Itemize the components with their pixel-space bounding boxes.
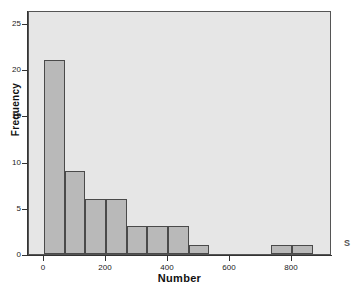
histogram-bar xyxy=(147,226,168,254)
x-tick-mark xyxy=(229,256,230,261)
histogram-bar xyxy=(168,226,189,254)
y-tick-mark xyxy=(22,116,28,117)
y-tick-label: 0 xyxy=(0,250,21,259)
y-tick-mark xyxy=(22,24,28,25)
bars-layer xyxy=(29,12,330,254)
x-tick-label: 600 xyxy=(212,263,246,272)
y-tick-mark xyxy=(22,163,28,164)
x-tick-mark xyxy=(105,256,106,261)
y-tick-mark xyxy=(22,209,28,210)
plot-area xyxy=(28,11,331,255)
y-tick-label: 10 xyxy=(0,158,21,167)
x-tick-label: 200 xyxy=(88,263,122,272)
corner-glyph: S xyxy=(344,238,350,248)
y-tick-mark xyxy=(22,255,28,256)
histogram-bar xyxy=(292,245,313,254)
y-tick-mark xyxy=(22,70,28,71)
histogram-bar xyxy=(271,245,292,254)
histogram-bar xyxy=(85,199,106,254)
histogram-bar xyxy=(189,245,209,254)
x-tick-mark xyxy=(43,256,44,261)
x-axis-line xyxy=(27,255,332,256)
histogram-figure: 0510152025 0200400600800 Frequency Numbe… xyxy=(0,0,357,287)
y-axis-line xyxy=(27,11,28,256)
y-axis-title: Frequency xyxy=(10,65,21,155)
y-tick-label: 25 xyxy=(0,19,21,28)
x-tick-label: 0 xyxy=(26,263,60,272)
x-tick-mark xyxy=(167,256,168,261)
x-axis-title: Number xyxy=(28,272,331,284)
histogram-bar xyxy=(127,226,147,254)
histogram-bar xyxy=(65,171,85,254)
x-tick-mark xyxy=(291,256,292,261)
x-tick-label: 800 xyxy=(274,263,308,272)
y-tick-label: 5 xyxy=(0,204,21,213)
histogram-bar xyxy=(106,199,127,254)
x-tick-label: 400 xyxy=(150,263,184,272)
histogram-bar xyxy=(44,60,65,254)
